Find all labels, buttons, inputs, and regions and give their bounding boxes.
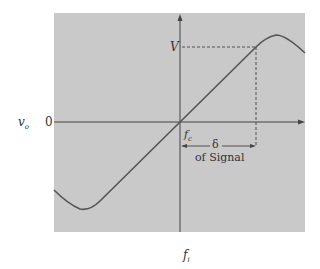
- x-axis-label: fi: [183, 249, 190, 264]
- delta-label: δ: [212, 139, 219, 150]
- v-level-label: V: [170, 41, 179, 53]
- y-axis-label: vo: [18, 116, 29, 131]
- center-frequency-label: fc: [184, 129, 192, 143]
- delta-caption: of Signal: [195, 152, 244, 163]
- s-curve-diagram: [0, 0, 320, 269]
- zero-label: 0: [45, 116, 53, 128]
